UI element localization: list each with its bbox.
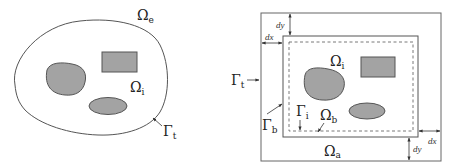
label-dx-bottom: dx xyxy=(428,136,437,146)
inclusion-ellipse xyxy=(89,98,127,115)
label-dy-top: dy xyxy=(276,20,285,30)
label-dy-bottom: dy xyxy=(413,144,422,154)
inclusion-blob xyxy=(46,63,85,95)
inner-boundary-rect xyxy=(283,36,418,137)
right-diagram: dy dx dx dy Γt Γb Γi Ωb Ωi xyxy=(231,13,441,161)
inclusion-ellipse xyxy=(349,103,385,119)
label-gamma-i: Γi xyxy=(296,103,309,121)
label-omega-i: Ωi xyxy=(330,53,345,71)
outer-boundary-rect xyxy=(261,13,441,161)
inclusion-blob xyxy=(304,68,344,100)
label-omega-b: Ωb xyxy=(320,107,338,125)
outer-domain-boundary xyxy=(14,20,167,135)
label-dx-top: dx xyxy=(265,32,274,42)
label-gamma-t-right: Γt xyxy=(231,72,245,90)
inclusion-rectangle xyxy=(102,52,137,72)
label-gamma-b: Γb xyxy=(262,117,278,135)
label-omega-i: Ωi xyxy=(130,79,145,97)
gamma-t-pointer-arrow xyxy=(153,118,162,126)
label-omega-e: Ωe xyxy=(137,7,154,25)
left-diagram: Ωe Ωi Γt xyxy=(14,7,176,141)
label-gamma-t-left: Γt xyxy=(163,123,177,141)
gamma-b-pointer-arrow xyxy=(267,104,282,114)
inclusion-rectangle xyxy=(361,57,395,77)
diagram-canvas: Ωe Ωi Γt dy dx dx dy Γt Γ xyxy=(0,0,454,165)
label-omega-a: Ωa xyxy=(324,143,342,160)
